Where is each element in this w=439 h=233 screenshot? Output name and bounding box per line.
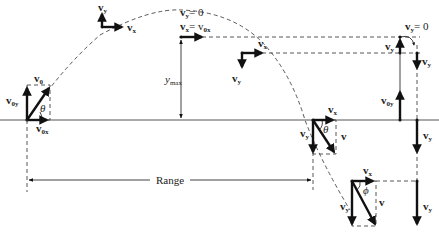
launch-vectors — [25, 85, 50, 122]
right-dot-3 — [416, 180, 419, 183]
ymax-label: ymax — [164, 73, 182, 87]
phi-label: ϕ — [363, 184, 369, 196]
rising-vy-label: vy — [98, 1, 108, 15]
apex-vx-label: vx= v0x — [180, 20, 211, 34]
right-dot-2 — [416, 119, 419, 122]
desc-vy-label: vy — [232, 72, 242, 86]
projectile-diagram: v0 v0y v0x θ vy vx vy= 0 vx= v0x ymax vx… — [0, 0, 439, 233]
landing-vx-label: vx — [328, 103, 338, 117]
v0x-label: v0x — [36, 122, 49, 136]
desc-vx-label: vx — [258, 37, 268, 51]
rising-point — [101, 26, 104, 29]
landing-theta-label: θ — [323, 123, 329, 135]
right-landing-vy-label: vy — [423, 129, 433, 143]
right-below-vy-label: vy — [423, 200, 433, 214]
right-desc-dot — [399, 52, 402, 55]
right-v0y-label: v0y — [381, 94, 394, 108]
rising-vectors — [101, 14, 122, 28]
right-ground-dot — [399, 119, 402, 122]
turnaround-arc — [400, 36, 414, 45]
phi-arc — [357, 181, 360, 190]
diagram-canvas: v0 v0y v0x θ vy vx vy= 0 vx= v0x ymax vx… — [0, 0, 439, 233]
below-vy-label: vy — [340, 200, 350, 214]
apex-point — [179, 35, 182, 38]
landing-v-label: v — [341, 130, 347, 142]
range-label: Range — [156, 174, 184, 186]
right-vy-up-label: vy — [385, 40, 395, 54]
below-point — [350, 179, 353, 182]
v0-label: v0 — [34, 72, 44, 86]
right-vy-down-label: vy — [422, 55, 432, 69]
apex-vy-label: vy= 0 — [180, 6, 204, 20]
desc-point — [241, 52, 244, 55]
below-vx-label: vx — [363, 164, 373, 178]
landing-point — [311, 118, 314, 121]
rising-vx-label: vx — [127, 21, 137, 35]
vertical-component-column — [399, 36, 419, 225]
right-dot-1 — [416, 52, 419, 55]
right-vy-zero-label: vy= 0 — [405, 20, 429, 34]
below-v-label: v — [379, 196, 385, 208]
theta-label: θ — [40, 102, 46, 114]
v0y-label: v0y — [6, 94, 19, 108]
v0-vector — [27, 88, 49, 120]
